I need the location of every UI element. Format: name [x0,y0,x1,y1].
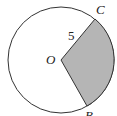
circle-sector-diagram: O C B 5 [0,0,117,116]
label-point-b: B [85,108,93,116]
label-radius: 5 [68,28,75,43]
label-center-o: O [46,52,56,67]
label-point-c: C [96,2,105,17]
